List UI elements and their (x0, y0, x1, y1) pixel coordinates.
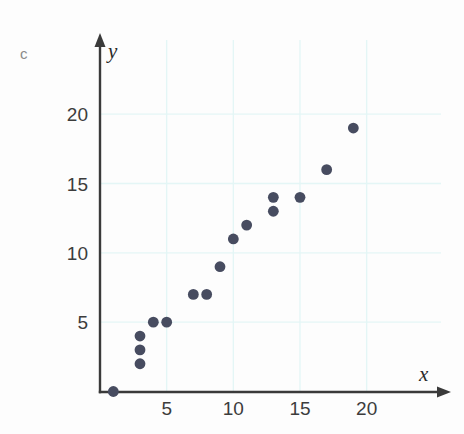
y-tick-label: 10 (67, 243, 88, 264)
data-point (321, 164, 332, 175)
y-tick-label: 20 (67, 104, 88, 125)
data-point (148, 317, 159, 328)
x-axis-arrowhead (437, 387, 451, 398)
data-point (108, 386, 119, 397)
scatter-plot: y x 5101520 5101520 (0, 0, 464, 434)
data-point (135, 345, 146, 356)
data-point (241, 220, 252, 231)
data-point (268, 206, 279, 217)
data-point (135, 331, 146, 342)
y-tick-labels: 5101520 (67, 104, 88, 333)
y-tick-label: 5 (77, 312, 88, 333)
x-axis-label: x (418, 362, 429, 386)
x-tick-label: 5 (161, 398, 172, 419)
data-point (215, 261, 226, 272)
data-point (161, 317, 172, 328)
data-point (135, 358, 146, 369)
data-point (228, 234, 239, 245)
figure-container: c y x 5101520 5101520 (0, 0, 464, 434)
y-axis-arrowhead (95, 33, 106, 47)
x-tick-label: 10 (223, 398, 244, 419)
x-tick-label: 20 (356, 398, 377, 419)
x-tick-label: 15 (289, 398, 310, 419)
data-point (268, 192, 279, 203)
data-point (201, 289, 212, 300)
y-tick-label: 15 (67, 174, 88, 195)
x-tick-labels: 5101520 (161, 398, 377, 419)
data-point (348, 123, 359, 134)
data-point (188, 289, 199, 300)
data-point (295, 192, 306, 203)
y-axis-label: y (106, 39, 118, 63)
